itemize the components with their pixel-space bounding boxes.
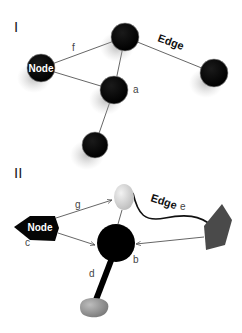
panel-2: II Node g c b d e Edge — [14, 164, 232, 317]
node-c-label: c — [25, 237, 30, 248]
edge-g-label: g — [75, 199, 81, 210]
panel-1: I Node f a Edge — [14, 18, 228, 170]
panel-2-label: II — [14, 164, 22, 181]
node-bottom-2 — [80, 298, 108, 317]
edge-e-label: e — [180, 201, 186, 212]
edge-light-to-b — [118, 210, 122, 224]
node-a — [100, 76, 128, 104]
node-pentagon — [204, 204, 232, 250]
edge-pentagon-to-b — [136, 237, 204, 244]
node-b-label: b — [133, 254, 139, 265]
node-bottom — [82, 132, 108, 158]
edge-d-label: d — [89, 268, 95, 279]
node-text: Node — [29, 63, 54, 74]
panel-1-label: I — [14, 18, 18, 35]
edge-label-2: Edge — [149, 191, 178, 211]
edge-node-to-b — [58, 233, 95, 245]
node-light — [114, 184, 134, 210]
edge-label: Edge — [156, 32, 185, 52]
node-a-label: a — [133, 84, 139, 95]
edge-d — [94, 258, 112, 305]
node-right — [200, 59, 228, 87]
edge-g — [56, 200, 112, 218]
diagram-canvas: I Node f a Edge II — [0, 0, 242, 333]
node-text-2: Node — [28, 222, 53, 233]
edge-f-label: f — [72, 42, 75, 53]
node-b — [97, 224, 135, 262]
node-top — [111, 23, 139, 51]
